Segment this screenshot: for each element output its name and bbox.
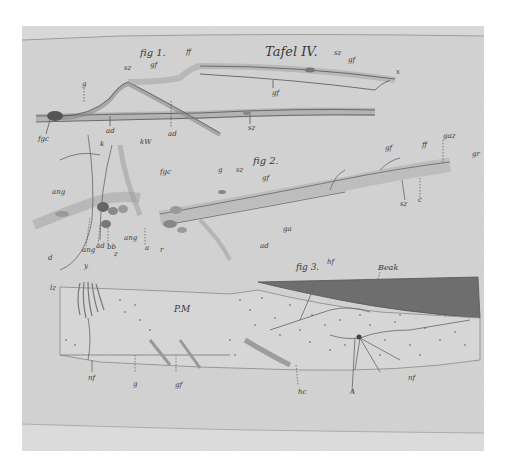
svg-text:ff: ff (185, 48, 192, 56)
svg-text:ad: ad (106, 127, 115, 135)
svg-text:g: g (218, 166, 223, 174)
svg-text:c: c (418, 196, 422, 204)
plate-drawing: Tafel IV. fig 1. gf ff sz gf x sz g gf (0, 0, 507, 469)
svg-text:ang: ang (124, 234, 138, 242)
svg-text:Beak: Beak (377, 263, 398, 272)
svg-text:A: A (349, 388, 355, 396)
svg-text:kW: kW (140, 138, 152, 146)
svg-text:ad: ad (96, 242, 105, 250)
svg-text:gaz: gaz (443, 132, 456, 140)
svg-text:fig 2.: fig 2. (252, 155, 279, 166)
svg-text:a: a (145, 244, 149, 252)
svg-text:ff: ff (421, 141, 428, 149)
svg-text:g: g (133, 380, 138, 388)
svg-text:sz: sz (248, 124, 256, 132)
svg-text:P.M: P.M (173, 304, 191, 314)
svg-text:k: k (100, 140, 104, 148)
svg-text:ga: ga (283, 225, 292, 233)
svg-text:d: d (48, 254, 53, 262)
svg-text:ang: ang (82, 246, 96, 254)
svg-text:sz: sz (334, 49, 342, 57)
svg-text:fgc: fgc (159, 168, 171, 176)
svg-text:sz: sz (400, 200, 408, 208)
paper-sheet (22, 26, 484, 451)
svg-text:fig 3.: fig 3. (295, 262, 319, 272)
svg-text:sz: sz (124, 64, 132, 72)
scientific-plate-scan: Tafel IV. fig 1. gf ff sz gf x sz g gf (0, 0, 507, 469)
svg-text:lz: lz (50, 284, 56, 292)
svg-text:sz: sz (236, 166, 244, 174)
svg-text:gr: gr (472, 150, 480, 158)
svg-text:hc: hc (298, 388, 307, 396)
svg-text:z: z (113, 250, 118, 258)
svg-text:fig 1.: fig 1. (139, 47, 166, 58)
svg-text:ad: ad (168, 130, 177, 138)
svg-text:g: g (82, 80, 87, 88)
svg-text:fgc: fgc (37, 135, 49, 143)
svg-text:x: x (396, 68, 400, 76)
svg-text:ad: ad (260, 242, 269, 250)
svg-text:ang: ang (52, 188, 66, 196)
plate-title: Tafel IV. (265, 44, 318, 59)
